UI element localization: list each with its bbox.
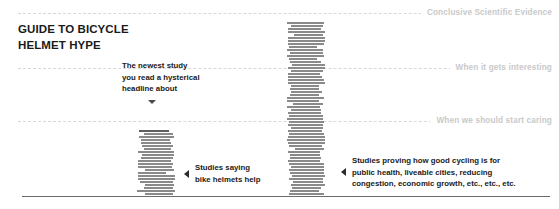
callout-cycling-benefits: Studies proving how good cycling is for … [341, 155, 516, 190]
callout-cycling-benefits-line-2: public health, liveable cities, reducing [352, 167, 516, 179]
bar-stripe [289, 46, 317, 48]
bar-stripe [292, 175, 325, 177]
bar-stripe [293, 103, 323, 105]
triangle-left-icon [341, 168, 346, 176]
bar-stripe [288, 67, 325, 69]
callout-cycling-benefits-line-3: congestion, economic growth, etc., etc.,… [352, 178, 516, 190]
triangle-down-icon [148, 100, 156, 104]
bar-stripe [288, 31, 325, 33]
bar-stripe [138, 175, 175, 177]
bar-stripe [287, 106, 320, 108]
bar-stripe [290, 61, 321, 63]
bar-stripe [291, 85, 319, 87]
bar-short-top-cap [139, 130, 169, 132]
bar-studies-bike-helmets [137, 133, 175, 196]
bar-stripe [289, 169, 324, 171]
chart-baseline [22, 196, 550, 197]
bar-stripe [288, 136, 325, 138]
bar-stripe [287, 55, 324, 57]
bar-stripe [288, 73, 320, 75]
page-title: GUIDE TO BICYCLE HELMET HYPE [18, 21, 129, 54]
reference-label-when-we-should-start-caring: When we should start caring [430, 117, 552, 125]
bar-stripe [141, 157, 173, 159]
bar-stripe [289, 163, 324, 165]
callout-bike-helmets-line-1: Studies saying [195, 162, 260, 174]
triangle-left-icon [184, 170, 189, 178]
bar-stripe [289, 115, 323, 117]
bar-stripe [288, 142, 325, 144]
bar-stripe [142, 154, 174, 156]
bar-stripe [288, 40, 325, 42]
bar-stripe [287, 22, 324, 24]
bar-stripe [138, 172, 166, 174]
annotation-newest-study-line-3: headline about [122, 83, 227, 95]
bar-stripe [288, 151, 320, 153]
bar-stripe [289, 58, 317, 60]
page-title-line-1: GUIDE TO BICYCLE [18, 21, 129, 37]
reference-label-conclusive-scientific-evidence: Conclusive Scientific Evidence [421, 9, 552, 17]
bar-stripe [141, 139, 170, 141]
bar-stripe [138, 160, 171, 162]
bar-stripe [288, 124, 323, 126]
bar-stripe [139, 136, 174, 138]
bar-stripe [141, 142, 171, 144]
bar-stripe [142, 145, 173, 147]
bar-stripe [138, 151, 174, 153]
bar-stripe [289, 133, 324, 135]
bar-stripe [138, 178, 175, 180]
bar-stripe [291, 91, 322, 93]
bar-stripe [287, 49, 323, 51]
bar-stripe [290, 190, 319, 192]
bar-stripe [138, 166, 172, 168]
bar-stripe [290, 157, 321, 159]
bar-stripe [287, 139, 325, 141]
bar-stripe [289, 121, 324, 123]
bar-stripe [293, 181, 323, 183]
bar-stripe [290, 88, 319, 90]
annotation-newest-study: The newest study you read a hysterical h… [122, 60, 227, 104]
bar-stripe [288, 76, 322, 78]
bar-stripe [290, 172, 324, 174]
bar-studies-cycling-benefits [287, 22, 325, 196]
bar-stripe [288, 160, 320, 162]
bar-stripe [289, 145, 322, 147]
bar-stripe [289, 178, 323, 180]
bar-stripe [290, 154, 320, 156]
bar-stripe [288, 82, 325, 84]
bar-stripe [138, 163, 173, 165]
bar-stripe [144, 187, 173, 189]
bar-stripe [291, 25, 323, 27]
bar-stripe [287, 118, 323, 120]
bar-stripe [290, 94, 319, 96]
bar-stripe [145, 184, 174, 186]
bar-stripe [291, 109, 321, 111]
reference-label-when-it-gets-interesting: When it gets interesting [450, 64, 552, 72]
page-title-line-2: HELMET HYPE [18, 37, 129, 53]
bar-stripe [145, 169, 174, 171]
callout-bike-helmets-text: Studies saying bike helmets help [195, 162, 260, 185]
bar-stripe [292, 187, 321, 189]
bar-stripe [291, 166, 324, 168]
bar-stripe [287, 97, 324, 99]
bar-stripe [144, 133, 173, 135]
bar-stripe [145, 193, 173, 195]
bar-stripe [137, 190, 175, 192]
bar-stripe [288, 37, 325, 39]
bar-stripe [287, 100, 319, 102]
bar-stripe [290, 52, 323, 54]
bar-stripe [292, 64, 325, 66]
callout-cycling-benefits-text: Studies proving how good cycling is for … [352, 155, 516, 190]
bar-stripe [140, 181, 173, 183]
bar-stripe [295, 148, 324, 150]
bar-stripe [288, 130, 322, 132]
callout-bike-helmets-line-2: bike helmets help [195, 174, 260, 186]
bar-stripe [289, 193, 324, 195]
bar-stripe [288, 43, 324, 45]
annotation-newest-study-line-2: you read a hysterical [122, 72, 227, 84]
bar-stripe [291, 70, 323, 72]
annotation-newest-study-line-1: The newest study [122, 60, 227, 72]
bar-stripe [144, 148, 171, 150]
bar-stripe [291, 184, 325, 186]
bar-stripe [288, 112, 321, 114]
infographic-canvas: Conclusive Scientific Evidence When it g… [0, 0, 559, 209]
